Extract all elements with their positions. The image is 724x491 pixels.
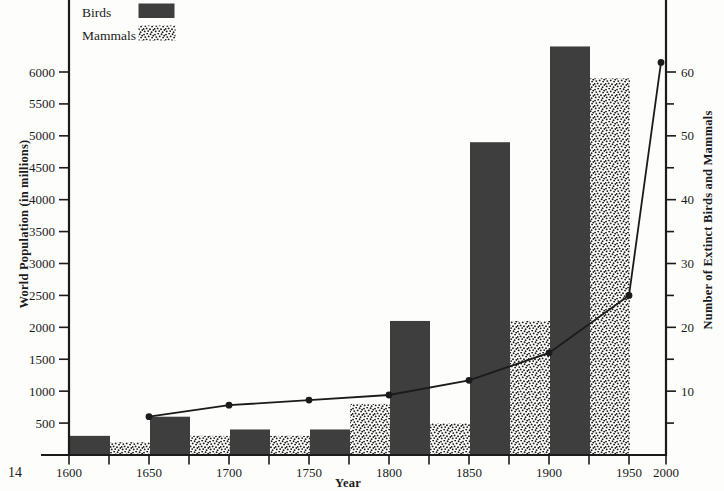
bar-mammals-1675 [190,436,230,455]
legend-swatch-birds-solid [139,4,175,19]
population-point-1700 [226,402,233,409]
x-tick-label-1800: 1800 [376,465,402,480]
population-extinction-chart: 5001000150020002500300035004000450050005… [0,0,724,491]
left-tick-label-2000: 2000 [29,320,55,335]
legend: Birds Mammals [82,4,176,43]
right-tick-label-40: 40 [681,192,694,207]
bar-mammals-1825 [430,423,470,455]
legend-label-mammals: Mammals [82,28,136,43]
left-tick-label-3000: 3000 [29,256,55,271]
x-tick-label-1900: 1900 [536,465,562,480]
population-point-2000 [658,59,665,66]
left-tick-label-4500: 4500 [29,160,55,175]
bar-birds-1650 [150,417,190,455]
left-axis-title: World Population (in millions) [17,140,31,309]
x-tick-label-1700: 1700 [216,465,242,480]
left-tick-label-5000: 5000 [29,128,55,143]
bar-birds-1600 [70,436,110,455]
legend-label-birds: Birds [82,5,111,20]
bar-mammals-1875 [510,321,550,455]
extinction-bars-layer [70,46,630,455]
right-tick-label-60: 60 [681,65,694,80]
x-tick-label-1950: 1950 [616,465,642,480]
bar-mammals-1625 [110,442,150,455]
bar-birds-1700 [230,429,270,455]
right-axis-title: Number of Extinct Birds and Mammals [701,111,715,330]
bar-mammals-1925 [590,78,630,455]
bar-birds-1900 [550,46,590,455]
page-number: 14 [8,465,22,480]
bar-mammals-1725 [270,436,310,455]
legend-swatch-mammals-stipple [139,26,176,41]
x-tick-label-1750: 1750 [296,465,322,480]
population-point-1750 [306,397,313,404]
x-tick-label-1650: 1650 [136,465,162,480]
population-point-1650 [146,413,153,420]
right-tick-label-20: 20 [681,320,694,335]
bar-birds-1850 [470,142,510,455]
left-tick-label-1500: 1500 [29,352,55,367]
population-point-1800 [386,392,393,399]
left-tick-label-2500: 2500 [29,288,55,303]
right-tick-label-10: 10 [681,384,694,399]
population-point-1950 [626,292,633,299]
x-tick-label-1850: 1850 [456,465,482,480]
left-tick-label-500: 500 [36,416,56,431]
left-tick-label-6000: 6000 [29,65,55,80]
population-point-1900 [546,349,553,356]
right-tick-label-50: 50 [681,128,694,143]
textbook-figure-page: 5001000150020002500300035004000450050005… [0,0,724,491]
left-tick-label-1000: 1000 [29,384,55,399]
x-axis-title: Year [335,476,361,490]
left-tick-label-5500: 5500 [29,96,55,111]
left-tick-label-3500: 3500 [29,224,55,239]
bar-birds-1750 [310,429,350,455]
right-tick-label-30: 30 [681,256,694,271]
bar-mammals-1775 [350,404,390,455]
x-tick-label-1600: 1600 [56,465,82,480]
population-point-1850 [466,377,473,384]
x-tick-label-2000: 2000 [653,465,679,480]
left-tick-label-4000: 4000 [29,192,55,207]
